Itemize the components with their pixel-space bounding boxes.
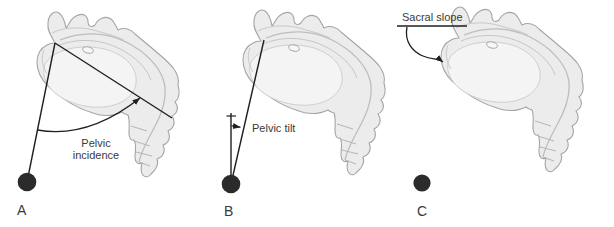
figure-canvas: Pelvic incidence A Pelvic tilt B Sacral … bbox=[0, 0, 614, 227]
femoral-head-dot-b bbox=[222, 175, 241, 194]
pelvic-tilt-label: Pelvic tilt bbox=[252, 122, 295, 134]
pelvic-incidence-label-line2: incidence bbox=[73, 149, 119, 161]
sacral-slope-pointer-arrow bbox=[406, 27, 443, 62]
panel-a: Pelvic incidence A bbox=[17, 12, 179, 218]
pelvic-tilt-angle-arrow bbox=[232, 126, 241, 127]
sacrum-c bbox=[441, 7, 583, 172]
sacrum-b bbox=[243, 10, 385, 175]
panel-b-caption: B bbox=[224, 203, 233, 219]
panel-b: Pelvic tilt B bbox=[222, 10, 386, 219]
pelvic-incidence-label-line1: Pelvic bbox=[81, 137, 111, 149]
sacral-slope-label: Sacral slope bbox=[402, 11, 463, 23]
femoral-head-dot-a bbox=[18, 173, 37, 192]
panel-c: Sacral slope C bbox=[397, 7, 583, 219]
panel-c-caption: C bbox=[417, 203, 427, 219]
panel-a-caption: A bbox=[17, 202, 27, 218]
pelvic-parameters-figure: Pelvic incidence A Pelvic tilt B Sacral … bbox=[0, 0, 614, 227]
femoral-head-dot-c bbox=[413, 174, 430, 191]
